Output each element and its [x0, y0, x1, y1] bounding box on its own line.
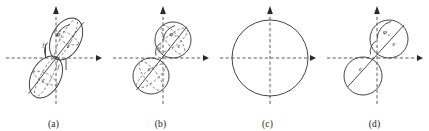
- principal-axis-line: [348, 25, 405, 87]
- label-e-lower: e: [148, 65, 151, 72]
- lower-circle: [344, 57, 382, 95]
- upper-sphere: [155, 22, 191, 58]
- label-phi-subscript-upper: c: [175, 33, 177, 38]
- y-axis-arrowhead: [53, 6, 59, 14]
- panel-a-caption: (a): [0, 119, 107, 129]
- panel-c-graphic: [214, 0, 321, 131]
- lower-sphere: [133, 58, 169, 94]
- lower-ellipsoid-meridian: [31, 55, 61, 99]
- lower-sphere-outline: [133, 58, 169, 94]
- x-axis-arrowhead: [417, 55, 423, 61]
- upper-ellipsoid-meridian: [51, 17, 81, 61]
- label-e-upper: e: [393, 40, 396, 47]
- y-axis-arrowhead: [374, 6, 380, 14]
- label-phi-upper: φ: [57, 30, 61, 38]
- label-phi-upper: φ: [383, 28, 387, 36]
- panel-a: φ c e f f e (a): [0, 0, 107, 131]
- x-axis-arrowhead: [96, 55, 102, 61]
- panel-b-caption: (b): [107, 119, 214, 129]
- label-phi-subscript-upper: c: [62, 34, 64, 39]
- label-e-upper: e: [67, 42, 70, 49]
- panel-b-graphic: φ c e f e: [107, 0, 214, 131]
- panel-a-graphic: φ c e f f e: [0, 0, 107, 131]
- figure-container: φ c e f f e (a): [0, 0, 429, 131]
- panel-d-caption: (d): [321, 119, 428, 129]
- x-axis-arrowhead: [310, 55, 316, 61]
- upper-circle: [370, 20, 408, 58]
- panel-d: φ c e e (d): [321, 0, 428, 131]
- label-e-lower: e: [42, 76, 45, 83]
- label-e-lower: e: [359, 65, 362, 72]
- panel-c: (c): [214, 0, 321, 131]
- upper-sphere-outline: [155, 22, 191, 58]
- panel-b: φ c e f e (b): [107, 0, 214, 131]
- y-axis-arrowhead: [160, 6, 166, 14]
- x-axis-arrowhead: [203, 55, 209, 61]
- label-phi-upper: φ: [170, 30, 174, 38]
- label-f-upper: f: [159, 45, 162, 52]
- label-f-lower: f: [58, 63, 61, 70]
- phi-angle-arc-inner: [45, 43, 48, 57]
- label-phi-subscript-upper: c: [388, 32, 390, 37]
- upper-ellipsoid-outline: [43, 12, 90, 65]
- panel-d-graphic: φ c e e: [321, 0, 428, 131]
- upper-sphere-meridian: [157, 22, 189, 58]
- upper-ellipsoid: [43, 12, 90, 65]
- panel-c-caption: (c): [214, 119, 321, 129]
- lower-sphere-meridian: [135, 58, 167, 94]
- label-e-upper: e: [178, 42, 181, 49]
- y-axis-arrowhead: [267, 6, 273, 14]
